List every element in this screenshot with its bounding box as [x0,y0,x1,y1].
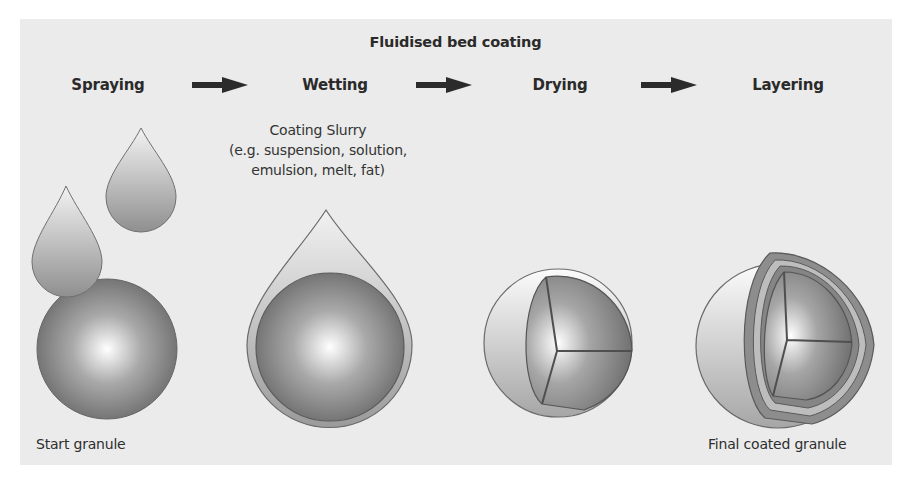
spraying-illustration [32,128,177,419]
coating-droplet-icon [106,128,176,232]
drying-illustration [484,269,632,417]
caption-start-granule: Start granule [36,436,126,452]
wetted-granule-icon [256,273,404,421]
start-granule-icon [37,279,177,419]
granule-core-cutaway-icon [526,276,632,410]
wetting-illustration [247,210,412,428]
coating-droplet-icon [32,186,102,297]
granule-illustrations [0,0,911,487]
layering-illustration [696,253,874,428]
caption-final-granule: Final coated granule [708,436,846,452]
